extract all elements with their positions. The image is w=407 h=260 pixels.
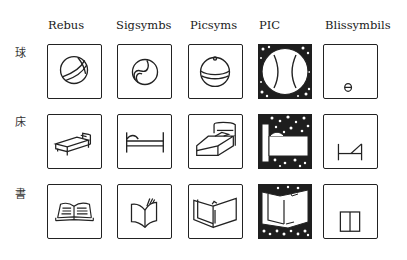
pic-bed-icon xyxy=(258,114,312,169)
cell-picsyms-bed xyxy=(188,114,243,169)
sigsymbs-bed-icon xyxy=(118,115,171,168)
cell-rebus-bed xyxy=(47,114,102,169)
cell-picsyms-ball xyxy=(188,44,243,99)
column-header-rebus: Rebus xyxy=(48,18,84,32)
column-header-sigsymbs: Sigsymbs xyxy=(116,18,171,32)
bliss-bed-icon xyxy=(324,115,377,168)
cell-pic-bed xyxy=(258,114,312,169)
cell-pic-ball xyxy=(258,44,312,99)
bliss-ball-icon xyxy=(324,45,377,98)
cell-rebus-book xyxy=(47,184,102,239)
rebus-book-icon xyxy=(48,185,101,238)
picsyms-ball-icon xyxy=(189,45,242,98)
bliss-book-icon xyxy=(324,185,377,238)
column-header-picsyms: Picsyms xyxy=(190,18,237,32)
row-label-bed: 床 xyxy=(15,113,26,129)
cell-sigsymbs-book xyxy=(117,184,172,239)
column-header-pic: PIC xyxy=(259,18,280,32)
column-header-blissymbils: Blissymbils xyxy=(325,18,391,32)
row-label-ball: 球 xyxy=(15,44,26,60)
rebus-ball-icon xyxy=(48,45,101,98)
cell-bliss-ball xyxy=(323,44,378,99)
sigsymbs-book-icon xyxy=(118,185,171,238)
cell-bliss-bed xyxy=(323,114,378,169)
cell-pic-book xyxy=(258,184,312,239)
cell-bliss-book xyxy=(323,184,378,239)
sigsymbs-ball-icon xyxy=(118,45,171,98)
pic-book-icon xyxy=(258,184,312,239)
cell-picsyms-book xyxy=(188,184,243,239)
cell-sigsymbs-bed xyxy=(117,114,172,169)
cell-rebus-ball xyxy=(47,44,102,99)
pic-ball-icon xyxy=(258,44,312,99)
row-label-book: 書 xyxy=(15,185,26,201)
picsyms-book-icon xyxy=(189,185,242,238)
cell-sigsymbs-ball xyxy=(117,44,172,99)
picsyms-bed-icon xyxy=(189,115,242,168)
rebus-bed-icon xyxy=(48,115,101,168)
